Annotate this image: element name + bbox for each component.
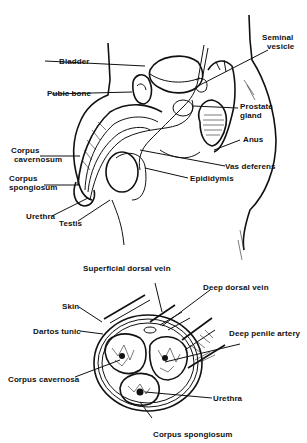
label-prostate-line1: Prostate bbox=[240, 102, 273, 111]
label-superficial-dorsal-vein: Superficial dorsal vein bbox=[83, 264, 171, 273]
label-corpus-cavernosum: Corpus cavernosum bbox=[11, 146, 62, 164]
label-anus: Anus bbox=[243, 135, 263, 144]
label-urethra-bottom: Urethra bbox=[213, 394, 242, 403]
label-corpus-cavernosa: Corpus cavernosa bbox=[8, 375, 79, 384]
label-deep-penile-artery: Deep penile artery bbox=[229, 329, 300, 338]
label-bladder: Bladder bbox=[59, 57, 90, 66]
label-corpus-spongiosum-line2: spongiosum bbox=[9, 183, 58, 192]
label-corpus-spongiosum-bottom: Corpus spongiosum bbox=[153, 430, 232, 439]
label-corpus-spongiosum: Corpus spongiosum bbox=[9, 174, 58, 192]
label-pubic-bone: Pubic bone bbox=[47, 89, 91, 98]
label-testis: Testis bbox=[59, 219, 82, 228]
label-prostate-line2: gland bbox=[240, 111, 273, 120]
label-vas-deferens: Vas deferens bbox=[225, 162, 276, 171]
label-urethra-top: Urethra bbox=[26, 212, 55, 221]
label-dartos-tunic: Dartos tunic bbox=[33, 327, 81, 336]
anatomy-figure: Seminal vesicle Bladder Pubic bone Prost… bbox=[0, 0, 307, 443]
label-corpus-cavernosum-line1: Corpus bbox=[11, 146, 62, 155]
label-seminal-vesicle-line1: Seminal bbox=[262, 33, 294, 42]
label-epididymis: Epididymis bbox=[190, 174, 234, 183]
label-seminal-vesicle: Seminal vesicle bbox=[262, 33, 294, 51]
label-deep-dorsal-vein: Deep dorsal vein bbox=[203, 283, 269, 292]
label-corpus-spongiosum-line1: Corpus bbox=[9, 174, 58, 183]
label-corpus-cavernosum-line2: cavernosum bbox=[11, 155, 62, 164]
label-prostate-gland: Prostate gland bbox=[240, 102, 273, 120]
label-skin: Skin bbox=[62, 302, 79, 311]
label-seminal-vesicle-line2: vesicle bbox=[262, 42, 294, 51]
